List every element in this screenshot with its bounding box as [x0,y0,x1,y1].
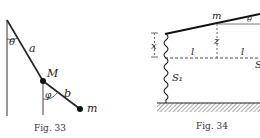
label-phi: φ [45,90,52,100]
label-z: z [213,35,220,46]
mass-m-bob [77,106,83,112]
label-theta: θ [247,15,252,24]
fig34-caption: Fig. 34 [196,121,228,131]
label-m: m [87,102,97,115]
label-l-left: l [191,46,194,57]
label-theta: θ [9,36,15,47]
label-M: M [46,67,59,80]
ground-hatching [157,103,260,112]
label-b: b [64,87,71,100]
label-a: a [29,42,36,55]
label-l-right: l [241,46,244,57]
mass-M-bob [40,78,46,84]
label-x: x [151,40,157,51]
fig34-spring-supported-rod: m θ x z l l S₁ S Fig. 34 [151,10,260,131]
fig33-caption: Fig. 33 [34,123,66,133]
spring-S1 [164,34,168,103]
figures-canvas: θ a M φ b m Fig. 33 m θ x z l l S₁ S Fig… [0,0,260,138]
label-m: m [212,10,221,21]
fig33-double-pendulum: θ a M φ b m Fig. 33 [7,20,97,133]
label-S1: S₁ [172,72,183,83]
label-S-right: S [255,59,260,70]
rod-a [7,20,43,81]
